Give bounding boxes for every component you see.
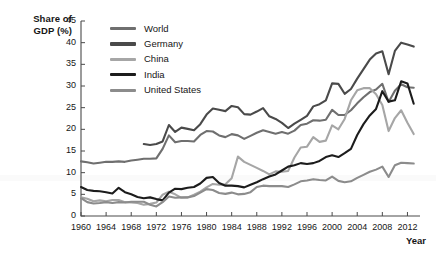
series-line-united-states [81,163,414,207]
y-tick-label: 0 [54,210,76,220]
y-tick-label: 30 [54,80,76,90]
y-tick-label: 15 [54,145,76,155]
legend-swatch-icon [110,58,136,61]
y-tick-label: 20 [54,123,76,133]
y-tick-label: 35 [54,58,76,68]
y-tick-label: 5 [54,188,76,198]
legend-item-germany[interactable]: Germany [110,36,201,51]
legend-item-label: United States [144,85,201,95]
legend-item-label: Germany [144,39,183,49]
legend-item-united-states[interactable]: United States [110,83,201,98]
x-tick-label: 2012 [392,222,422,232]
legend-swatch-icon [110,27,136,30]
legend-swatch-icon [110,73,136,76]
legend-swatch-icon [110,89,136,92]
y-tick-label: 10 [54,167,76,177]
chart-legend: WorldGermanyChinaIndiaUnited States [110,21,201,98]
y-tick-label: 40 [54,37,76,47]
legend-item-china[interactable]: China [110,52,201,67]
legend-swatch-icon [110,42,136,45]
chart-figure: Share of GDP (%) Year 454035302520151050… [0,0,436,255]
legend-item-label: World [144,24,169,34]
y-tick-label: 45 [54,15,76,25]
legend-item-india[interactable]: India [110,67,201,82]
series-line-china [81,88,414,205]
legend-item-world[interactable]: World [110,21,201,36]
legend-item-label: India [144,70,165,80]
legend-item-label: China [144,54,169,64]
y-tick-label: 25 [54,102,76,112]
series-line-india [81,81,414,200]
